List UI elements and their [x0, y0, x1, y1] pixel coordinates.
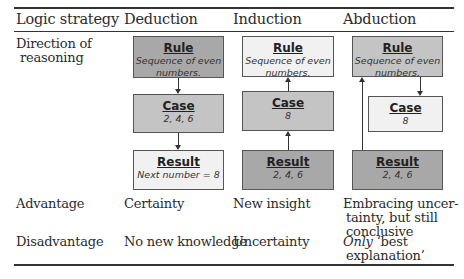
abduction-case-box: Case 8: [368, 96, 443, 132]
induction-case-box: Case 8: [242, 91, 334, 131]
row-label-advantage: Advantage: [16, 197, 84, 211]
abduction-arrow-result-to-rule: [362, 82, 363, 150]
abduction-result-sub: 2, 4, 6: [353, 169, 442, 181]
deduction-arrow-case-to-result: [178, 133, 179, 145]
disadvantage-abduction: Only ‘best explanation’: [343, 235, 425, 263]
deduction-result-title: Result: [134, 155, 223, 169]
deduction-case-sub: 2, 4, 6: [134, 113, 223, 125]
deduction-case-box: Case 2, 4, 6: [133, 94, 224, 133]
induction-arrow-result-to-case: [288, 136, 289, 150]
row-label-direction: Direction of reasoning: [16, 37, 92, 65]
induction-rule-sub1: Sequence of even: [243, 55, 333, 67]
advantage-abduction: Embracing uncer- tainty, but still concl…: [343, 197, 459, 239]
induction-rule-box: Rule Sequence of even numbers.: [242, 36, 334, 77]
disadvantage-abduction-line1: Only ‘best: [343, 235, 425, 249]
induction-case-title: Case: [243, 96, 333, 110]
induction-result-title: Result: [243, 155, 333, 169]
header-abduction: Abduction: [343, 12, 416, 26]
header-bottom-rule: [14, 31, 454, 32]
abduction-arrow-rule-to-case: [420, 77, 421, 91]
deduction-case-title: Case: [134, 99, 223, 113]
abduction-rule-title: Rule: [353, 41, 442, 55]
table-bottom-rule: [14, 264, 454, 266]
deduction-rule-title: Rule: [134, 41, 223, 55]
induction-rule-title: Rule: [243, 41, 333, 55]
induction-result-box: Result 2, 4, 6: [242, 150, 334, 190]
disadvantage-induction: Uncertainty: [233, 235, 309, 249]
abduction-case-sub: 8: [369, 115, 442, 127]
abduction-result-title: Result: [353, 155, 442, 169]
deduction-result-box: Result Next number = 8: [133, 150, 224, 190]
deduction-rule-box: Rule Sequence of even numbers.: [133, 36, 224, 78]
abduction-case-title: Case: [369, 101, 442, 115]
deduction-rule-sub1: Sequence of even: [134, 55, 223, 67]
abduction-rule-box: Rule Sequence of even numbers.: [352, 36, 443, 77]
header-logic-strategy: Logic strategy: [16, 12, 119, 26]
abduction-rule-sub1: Sequence of even: [353, 55, 442, 67]
abduction-rule-sub2: numbers.: [353, 67, 442, 79]
advantage-abduction-line2: tainty, but still: [343, 211, 459, 225]
induction-case-sub: 8: [243, 110, 333, 122]
abduction-result-box: Result 2, 4, 6: [352, 150, 443, 190]
table-top-rule: [14, 7, 454, 9]
disadvantage-deduction: No new knowledge: [124, 235, 247, 249]
disadvantage-abduction-line1-rest: ‘best: [373, 234, 408, 249]
advantage-induction: New insight: [233, 197, 310, 211]
row-label-direction-line2: reasoning: [16, 51, 92, 65]
deduction-arrow-rule-to-case: [178, 78, 179, 89]
disadvantage-abduction-line2: explanation’: [343, 249, 425, 263]
header-induction: Induction: [233, 12, 302, 26]
advantage-deduction: Certainty: [124, 197, 184, 211]
advantage-abduction-line1: Embracing uncer-: [343, 197, 459, 211]
row-label-disadvantage: Disadvantage: [16, 235, 103, 249]
row-label-direction-line1: Direction of: [16, 37, 92, 51]
deduction-result-sub: Next number = 8: [134, 169, 223, 181]
induction-arrow-case-to-rule: [288, 82, 289, 91]
disadvantage-abduction-only: Only: [343, 234, 373, 249]
header-deduction: Deduction: [124, 12, 198, 26]
induction-result-sub: 2, 4, 6: [243, 169, 333, 181]
